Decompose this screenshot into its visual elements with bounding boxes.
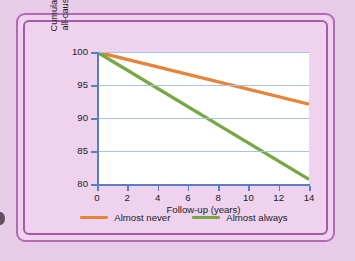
- x-tick-label-4: 4: [155, 192, 160, 203]
- chart-legend: Almost neverAlmost always: [53, 212, 315, 223]
- legend-item-0[interactable]: Almost never: [80, 212, 170, 223]
- y-axis-label: Cumulative survival for all-cause mortal…: [47, 0, 73, 50]
- gridline-y-100: [97, 52, 309, 53]
- gridline-y-90: [97, 118, 309, 119]
- x-tick-6: [188, 186, 190, 191]
- survival-chart: Cumulative survival for all-cause mortal…: [53, 44, 315, 240]
- series-line-0: [97, 52, 309, 104]
- series-line-1: [97, 52, 309, 179]
- x-tick-2: [127, 186, 129, 191]
- x-tick-label-6: 6: [185, 192, 190, 203]
- y-tick-label-80: 80: [77, 178, 88, 189]
- x-tick-12: [279, 186, 281, 191]
- y-tick-label-85: 85: [77, 145, 88, 156]
- x-tick-0: [97, 186, 99, 191]
- page-edge-mark: [0, 212, 5, 225]
- x-tick-label-0: 0: [94, 192, 99, 203]
- x-tick-10: [248, 186, 250, 191]
- x-tick-label-2: 2: [125, 192, 130, 203]
- plot-area: [97, 52, 309, 184]
- legend-swatch-icon-0: [80, 216, 108, 220]
- y-axis-label-line1: Cumulative survival for: [49, 0, 61, 31]
- y-tick-95: 95: [91, 85, 97, 87]
- y-axis-line: [97, 52, 99, 185]
- y-axis-label-line2: all-cause mortality (%): [60, 0, 72, 30]
- legend-label-1: Almost always: [226, 212, 287, 223]
- x-tick-8: [218, 186, 220, 191]
- figure-inner-frame: Cumulative survival for all-cause mortal…: [23, 20, 328, 235]
- y-tick-100: 100: [91, 52, 97, 54]
- figure-outer-frame: Cumulative survival for all-cause mortal…: [16, 13, 335, 242]
- x-tick-label-8: 8: [215, 192, 220, 203]
- y-tick-label-100: 100: [72, 46, 88, 57]
- legend-label-0: Almost never: [114, 212, 170, 223]
- plot-wrapper: [97, 52, 309, 184]
- legend-swatch-icon-1: [192, 216, 220, 220]
- y-tick-90: 90: [91, 118, 97, 120]
- legend-item-1[interactable]: Almost always: [192, 212, 287, 223]
- x-tick-label-12: 12: [273, 192, 284, 203]
- gridline-y-85: [97, 151, 309, 152]
- x-tick-14: [309, 186, 311, 191]
- x-tick-4: [158, 186, 160, 191]
- y-tick-85: 85: [91, 151, 97, 153]
- y-tick-label-95: 95: [77, 79, 88, 90]
- gridline-y-95: [97, 85, 309, 86]
- x-tick-label-10: 10: [243, 192, 254, 203]
- y-tick-label-90: 90: [77, 112, 88, 123]
- x-tick-label-14: 14: [304, 192, 315, 203]
